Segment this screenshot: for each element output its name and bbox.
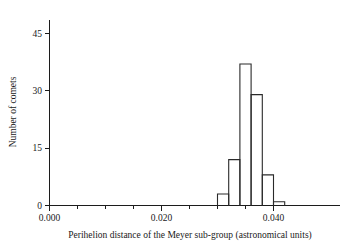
y-axis-title: Number of comets <box>8 76 18 147</box>
x-tick-label-0.000: 0.000 <box>39 213 61 223</box>
x-axis-title: Perihelion distance of the Meyer sub-gro… <box>68 230 312 241</box>
x-tick-label-0.020: 0.020 <box>151 213 173 223</box>
histogram-figure: 0 15 30 45 0.000 0.020 0.040 Perihelion … <box>0 0 347 246</box>
histogram-bar <box>218 194 229 205</box>
histogram-bars <box>218 64 285 206</box>
y-tick-label-0: 0 <box>37 201 42 211</box>
x-tick-label-0.040: 0.040 <box>263 213 285 223</box>
histogram-bar <box>240 64 251 206</box>
y-tick-label-45: 45 <box>33 29 43 39</box>
histogram-bar <box>251 95 262 206</box>
histogram-bar <box>229 160 240 206</box>
histogram-bar <box>262 175 273 206</box>
y-tick-label-30: 30 <box>33 86 43 96</box>
y-tick-label-15: 15 <box>33 143 43 153</box>
histogram-plot: 0 15 30 45 0.000 0.020 0.040 Perihelion … <box>0 0 347 246</box>
